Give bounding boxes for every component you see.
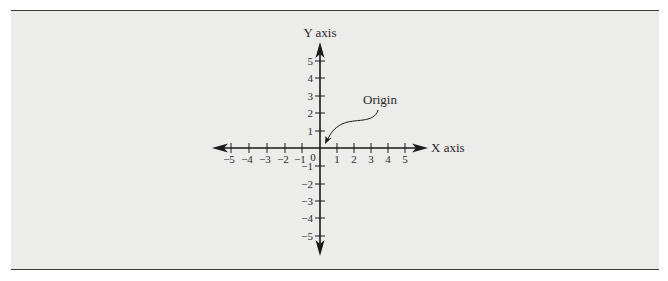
y-axis-label: Y axis [303,25,336,40]
x-tick-label: 1 [334,153,340,165]
x-tick-label: −2 [277,153,289,165]
origin-callout-label: Origin [363,92,397,107]
y-tick-label: 4 [308,72,314,84]
coordinate-plane-diagram: −5 −4 −3 −2 −1 1 2 3 4 5 0 5 4 3 2 1 −1 … [0,0,668,281]
y-tick-label: −1 [301,160,313,172]
y-tick-label: −3 [301,195,313,207]
y-tick-label: 5 [308,55,314,67]
y-tick-label: −4 [301,212,313,224]
x-axis-label: X axis [431,140,465,155]
x-tick-label: −4 [241,153,253,165]
origin-callout-curve [328,110,378,139]
y-tick-label: 3 [308,90,314,102]
y-tick-label: 2 [308,107,314,119]
y-tick-label: −2 [301,178,313,190]
x-tick-label: −5 [223,153,235,165]
y-tick-label: 1 [308,125,314,137]
x-tick-label: 3 [368,153,374,165]
x-tick-label: 4 [385,153,391,165]
x-tick-label: 2 [351,153,357,165]
x-tick-label: −3 [259,153,271,165]
y-tick-label: −5 [301,230,313,242]
x-tick-label: 5 [402,153,408,165]
